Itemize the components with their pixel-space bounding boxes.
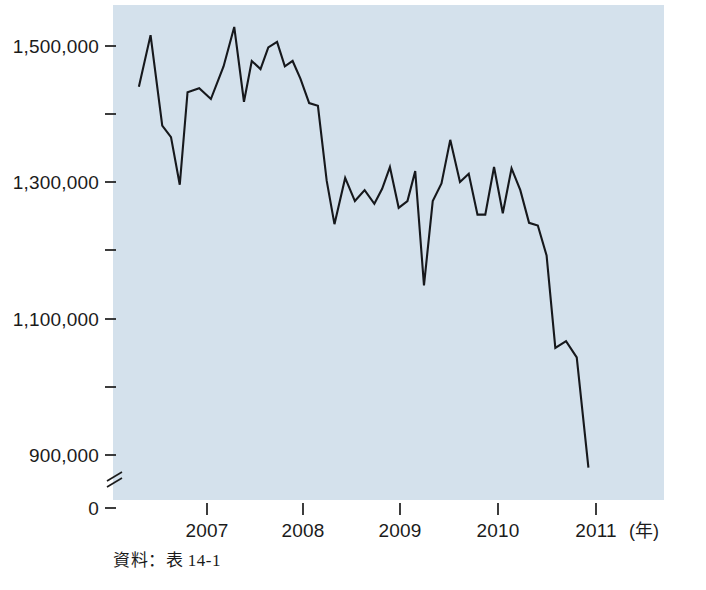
y-tick-label-1100000: 1,100,000 <box>13 309 99 330</box>
x-axis-unit-label: (年) <box>629 521 659 541</box>
x-tick-label-2010: 2010 <box>476 520 519 541</box>
y-axis-labels: 1,500,000 1,300,000 1,100,000 900,000 0 <box>13 36 99 519</box>
x-tick-label-2011: 2011 <box>575 520 617 541</box>
line-chart: 1,500,000 1,300,000 1,100,000 900,000 0 … <box>0 0 706 590</box>
chart-figure: 1,500,000 1,300,000 1,100,000 900,000 0 … <box>0 0 706 590</box>
plot-area-background <box>113 5 664 500</box>
x-axis-labels: 2007 2008 2009 2010 2011 (年) <box>185 520 659 541</box>
x-tick-label-2009: 2009 <box>378 520 421 541</box>
y-tick-label-900000: 900,000 <box>29 445 99 466</box>
y-tick-label-0: 0 <box>88 498 99 519</box>
x-axis-ticks <box>207 503 596 515</box>
source-caption: 資料：表 14-1 <box>113 546 221 571</box>
x-tick-label-2007: 2007 <box>185 520 228 541</box>
y-tick-label-1500000: 1,500,000 <box>13 36 99 57</box>
y-tick-label-1300000: 1,300,000 <box>13 172 99 193</box>
x-tick-label-2008: 2008 <box>281 520 324 541</box>
